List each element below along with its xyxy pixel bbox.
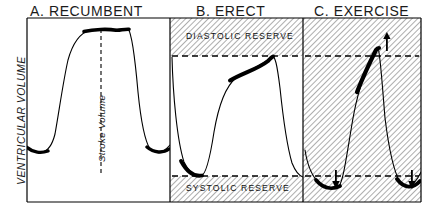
panel-title-erect: B. ERECT bbox=[196, 3, 265, 19]
recumbent-diastolic-plateau bbox=[84, 29, 129, 31]
stroke-volume-annotation: Stroke Volume bbox=[96, 95, 107, 162]
diastolic-reserve-label: DIASTOLIC RESERVE bbox=[186, 31, 294, 41]
systolic-reserve-label: SYSTOLIC RESERVE bbox=[186, 183, 290, 193]
exercise-shaded-region-c bbox=[303, 18, 421, 202]
panel-title-exercise: C. EXERCISE bbox=[314, 3, 409, 19]
panel-title-recumbent: A. RECUMBENT bbox=[30, 3, 143, 19]
y-axis-label: VENTRICULAR VOLUME bbox=[15, 56, 27, 185]
